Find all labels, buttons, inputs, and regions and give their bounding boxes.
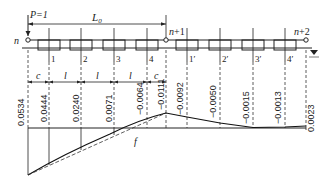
pier-1-label: 1 — [51, 54, 56, 64]
value-1p: −0.0092 — [175, 82, 185, 115]
dim-l2: l — [96, 70, 99, 81]
span-label: L0 — [91, 11, 102, 25]
value-4: −0.0064 — [135, 82, 145, 115]
node-n-label: n — [14, 35, 19, 46]
value-3p: −0.0015 — [241, 91, 251, 124]
value-n1: −0.0111 — [156, 79, 166, 110]
value-2: 0.0240 — [71, 94, 81, 122]
dim-l3: l — [129, 70, 132, 81]
pier-2-label: 2 — [83, 54, 88, 64]
value-n2: 0.0023 — [306, 104, 316, 132]
influence-line-diagram: P=1 L0 n n+1 n+2 1 2 3 4 1′ 2′ 3′ 4′ c l… — [0, 0, 330, 190]
influence-curve — [28, 113, 306, 175]
pier-4-label: 4 — [149, 54, 154, 64]
pier-3p-label: 3′ — [255, 54, 262, 64]
value-3: 0.0071 — [104, 94, 114, 122]
dim-c1: c — [36, 70, 41, 81]
load-label: P=1 — [29, 9, 48, 20]
node-n2 — [304, 38, 308, 42]
value-n: 0.0534 — [16, 98, 26, 126]
dashed-axes — [28, 50, 306, 128]
value-1: 0.0444 — [39, 94, 49, 122]
dim-l1: l — [64, 70, 67, 81]
ordinates — [28, 128, 306, 175]
node-n1-label: n+1 — [169, 26, 185, 37]
node-n2-label: n+2 — [294, 26, 310, 37]
pier-3-label: 3 — [116, 54, 121, 64]
water-level-icon — [309, 50, 319, 57]
node-n1 — [164, 38, 168, 42]
pier-2p-label: 2′ — [222, 54, 229, 64]
value-4p: −0.0013 — [273, 91, 283, 124]
pier-4p-label: 4′ — [287, 54, 294, 64]
curve-f-label: f — [134, 136, 138, 147]
value-2p: −0.0050 — [208, 85, 218, 118]
node-n — [26, 38, 30, 42]
pier-1p-label: 1′ — [189, 54, 196, 64]
